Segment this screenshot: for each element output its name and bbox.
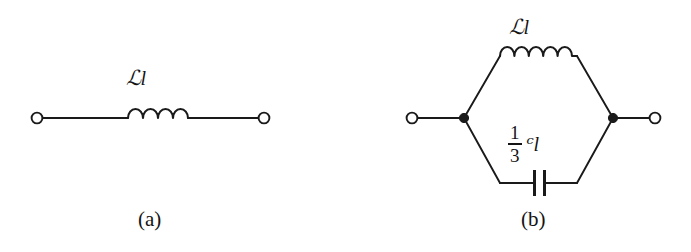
panel-a-inductor-label: ℒl	[126, 68, 146, 89]
panel-b-inductor-script-symbol: ℒ	[509, 15, 524, 39]
panel-b-left-terminal-icon	[407, 113, 418, 124]
panel-a-right-terminal-icon	[259, 113, 270, 124]
capacitor-fraction-denominator: 3	[508, 146, 522, 165]
panel-a-inductor-script-symbol: ℒ	[126, 66, 141, 90]
panel-a-inductor-coil-icon	[128, 109, 188, 118]
circuit-svg-canvas	[0, 0, 691, 252]
capacitor-symbol-group: ᶜl	[527, 134, 539, 155]
panel-b-inductor-label: ℒl	[509, 17, 529, 38]
caption-panel-b: (b)	[521, 209, 546, 230]
panel-b-left-node-dot-icon	[459, 113, 468, 122]
panel-b-right-node-dot-icon	[608, 113, 617, 122]
panel-a-circuit	[32, 109, 270, 123]
panel-b-right-terminal-icon	[650, 113, 661, 124]
panel-b-capacitor-length-symbol: l	[533, 133, 539, 155]
panel-b-inductor-length-symbol: l	[524, 16, 530, 38]
capacitor-fraction-one-third: 1 3	[508, 123, 522, 165]
circuit-figure: ℒl ℒl 1 3 ᶜl (a) (b)	[0, 0, 691, 252]
panel-b-circuit	[407, 47, 661, 196]
panel-b-lower-left-diagonal	[464, 118, 500, 183]
panel-a-left-terminal-icon	[32, 113, 43, 124]
panel-b-upper-right-diagonal	[577, 56, 613, 118]
panel-b-inductor-coil-icon	[500, 47, 577, 56]
panel-b-upper-left-diagonal	[464, 56, 500, 118]
panel-b-capacitor-label: 1 3 ᶜl	[508, 123, 539, 165]
capacitor-fraction-numerator: 1	[508, 123, 522, 142]
caption-panel-a: (a)	[138, 209, 161, 230]
panel-a-inductor-length-symbol: l	[141, 67, 147, 89]
panel-b-lower-right-diagonal	[577, 118, 613, 183]
